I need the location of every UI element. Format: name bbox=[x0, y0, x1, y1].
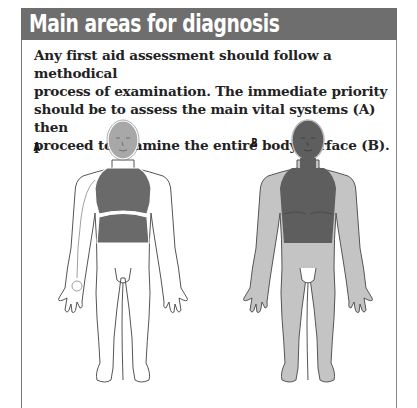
intro-line: process of examination. The immediate pr… bbox=[34, 82, 394, 100]
section-title: Main areas for diagnosis bbox=[29, 9, 280, 39]
head-shaded-area bbox=[292, 120, 324, 160]
figure-a-label: A bbox=[33, 140, 40, 154]
head-shaded-area bbox=[108, 121, 138, 159]
torso-shaded-area bbox=[280, 168, 336, 243]
intro-line: Any first aid assessment should follow a… bbox=[34, 46, 394, 82]
body-diagram-b bbox=[240, 118, 380, 386]
section-header: Main areas for diagnosis bbox=[21, 8, 397, 40]
abdomen-shaded-area bbox=[97, 214, 149, 244]
chest-shaded-area bbox=[95, 168, 151, 214]
body-diagram-a bbox=[55, 118, 195, 386]
